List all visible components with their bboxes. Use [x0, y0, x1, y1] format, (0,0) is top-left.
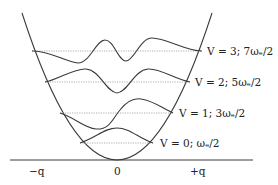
level-label-v2: V = 2; 5ωₑ/2: [194, 76, 261, 88]
level-label-v1: V = 1; 3ωₑ/2: [178, 107, 245, 119]
tick-minus-q: −q: [29, 165, 45, 177]
wavefunction-v3: [32, 38, 202, 63]
harmonic-oscillator-diagram: V = 3; 7ωₑ/2 V = 2; 5ωₑ/2 V = 1; 3ωₑ/2 V…: [0, 0, 278, 185]
level-label-v0: V = 0; ωₑ/2: [159, 137, 219, 149]
level-label-v3: V = 3; 7ωₑ/2: [206, 45, 273, 57]
tick-plus-q: +q: [190, 165, 206, 177]
tick-zero: 0: [114, 165, 121, 177]
wavefunction-v1: [60, 99, 173, 129]
wavefunction-v0: [80, 128, 153, 143]
wavefunction-v2: [45, 69, 190, 93]
